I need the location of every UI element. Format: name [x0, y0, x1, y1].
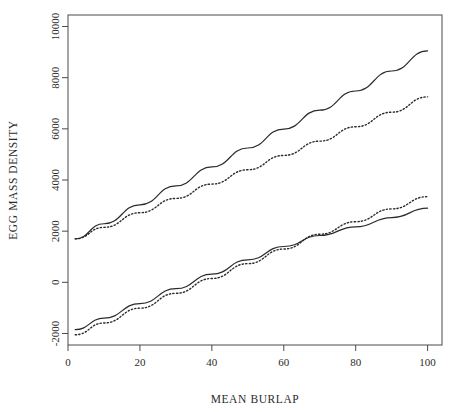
x-axis-title: MEAN BURLAP	[211, 393, 300, 405]
y-tick-label: 2000	[49, 220, 61, 243]
x-tick-label: 40	[206, 356, 218, 368]
x-tick-label: 0	[65, 356, 71, 368]
chart-figure: -20000200040006000800010000 020406080100…	[0, 0, 452, 412]
x-tick-label: 100	[419, 356, 436, 368]
y-tick-label: 6000	[49, 117, 61, 140]
y-tick-label: 8000	[49, 66, 61, 89]
y-tick-label: 4000	[49, 169, 61, 192]
y-tick-label: 10000	[49, 12, 61, 40]
y-tick-label: -2000	[49, 320, 61, 346]
y-tick-label: 0	[49, 279, 61, 285]
x-tick-label: 60	[278, 356, 290, 368]
y-axis-title: EGG MASS DENSITY	[7, 120, 19, 240]
x-tick-label: 80	[350, 356, 362, 368]
plot-canvas: -20000200040006000800010000 020406080100…	[0, 0, 452, 412]
x-tick-label: 20	[134, 356, 146, 368]
